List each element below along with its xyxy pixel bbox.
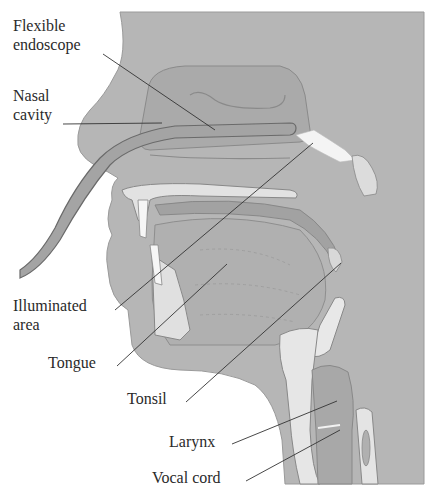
label-line: Tongue — [48, 353, 96, 372]
anatomy-illustration — [0, 0, 439, 496]
label-flexible-endoscope: Flexible endoscope — [13, 16, 81, 54]
label-nasal-cavity: Nasal cavity — [13, 86, 52, 124]
label-line: Vocal cord — [152, 468, 221, 487]
label-tonsil: Tonsil — [127, 389, 167, 408]
label-line: Nasal — [13, 86, 52, 105]
label-line: Flexible — [13, 16, 81, 35]
label-line: Tonsil — [127, 389, 167, 408]
label-line: Illuminated — [13, 296, 87, 315]
vertebra-canal — [362, 430, 370, 466]
label-line: Larynx — [169, 432, 215, 451]
label-line: endoscope — [13, 35, 81, 54]
label-illuminated-area: Illuminated area — [13, 296, 87, 334]
label-tongue: Tongue — [48, 353, 96, 372]
endoscopy-anatomy-diagram: Flexible endoscope Nasal cavity Illumina… — [0, 0, 439, 496]
upper-incisor — [138, 200, 148, 238]
label-line: cavity — [13, 105, 52, 124]
label-vocal-cord: Vocal cord — [152, 468, 221, 487]
label-larynx: Larynx — [169, 432, 215, 451]
label-line: area — [13, 315, 87, 334]
trachea — [312, 365, 353, 484]
